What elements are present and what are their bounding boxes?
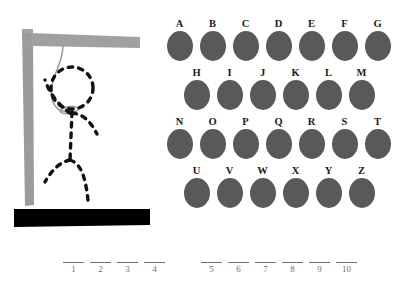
letter-label-s: S [328, 116, 361, 128]
letter-disc-b[interactable] [200, 31, 226, 61]
letter-button-n[interactable]: N [163, 116, 196, 165]
answer-slot-8: 8 [279, 258, 306, 275]
letter-button-f[interactable]: F [328, 18, 361, 67]
letter-label-g: G [361, 18, 394, 30]
letter-disc-p[interactable] [233, 129, 259, 159]
letter-disc-f[interactable] [332, 31, 358, 61]
letter-label-c: C [229, 18, 262, 30]
answer-blank-line-3 [117, 262, 138, 263]
letter-button-b[interactable]: B [196, 18, 229, 67]
letter-button-o[interactable]: O [196, 116, 229, 165]
letter-disc-v[interactable] [217, 178, 243, 208]
letter-label-h: H [180, 67, 213, 79]
gallows-base [14, 209, 150, 227]
letter-button-c[interactable]: C [229, 18, 262, 67]
letter-button-q[interactable]: Q [262, 116, 295, 165]
letter-disc-h[interactable] [184, 80, 210, 110]
letter-button-z[interactable]: Z [345, 165, 378, 214]
letter-disc-n[interactable] [167, 129, 193, 159]
letter-disc-e[interactable] [299, 31, 325, 61]
letter-button-v[interactable]: V [213, 165, 246, 214]
letter-disc-g[interactable] [365, 31, 391, 61]
letter-button-s[interactable]: S [328, 116, 361, 165]
letter-button-y[interactable]: Y [312, 165, 345, 214]
letter-disc-k[interactable] [283, 80, 309, 110]
letter-label-x: X [279, 165, 312, 177]
answer-blank-line-2 [90, 262, 111, 263]
letter-button-m[interactable]: M [345, 67, 378, 116]
letter-button-p[interactable]: P [229, 116, 262, 165]
letter-button-j[interactable]: J [246, 67, 279, 116]
answer-blank-line-8 [282, 262, 303, 263]
letter-disc-s[interactable] [332, 129, 358, 159]
letter-disc-y[interactable] [316, 178, 342, 208]
letter-label-q: Q [262, 116, 295, 128]
alphabet-grid: ABCDEFGHIJKLMNOPQRSTUVWXYZ [163, 18, 413, 236]
letter-disc-c[interactable] [233, 31, 259, 61]
letter-disc-m[interactable] [349, 80, 375, 110]
letter-disc-u[interactable] [184, 178, 210, 208]
letter-button-h[interactable]: H [180, 67, 213, 116]
letter-disc-d[interactable] [266, 31, 292, 61]
letter-button-d[interactable]: D [262, 18, 295, 67]
answer-slot-number-10: 10 [333, 264, 360, 275]
gallows-post-cap [22, 29, 33, 33]
gallows-post [22, 31, 34, 206]
letter-label-a: A [163, 18, 196, 30]
letter-label-z: Z [345, 165, 378, 177]
letter-button-g[interactable]: G [361, 18, 394, 67]
letter-button-x[interactable]: X [279, 165, 312, 214]
letter-label-u: U [180, 165, 213, 177]
letter-button-a[interactable]: A [163, 18, 196, 67]
answer-slot-1: 1 [60, 258, 87, 275]
letter-button-k[interactable]: K [279, 67, 312, 116]
letter-disc-q[interactable] [266, 129, 292, 159]
figure-right-leg [70, 160, 88, 200]
hangman-game-board: ABCDEFGHIJKLMNOPQRSTUVWXYZ 1234 5678910 [0, 0, 413, 300]
alphabet-row-4: UVWXYZ [163, 165, 413, 214]
letter-disc-x[interactable] [283, 178, 309, 208]
answer-blank-line-5 [201, 262, 222, 263]
letter-disc-t[interactable] [365, 129, 391, 159]
letter-label-w: W [246, 165, 279, 177]
answer-blanks-area: 1234 5678910 [0, 258, 413, 288]
letter-button-e[interactable]: E [295, 18, 328, 67]
letter-button-t[interactable]: T [361, 116, 394, 165]
letter-label-i: I [213, 67, 246, 79]
answer-blank-line-9 [309, 262, 330, 263]
letter-label-y: Y [312, 165, 345, 177]
letter-button-w[interactable]: W [246, 165, 279, 214]
alphabet-row-1: ABCDEFG [163, 18, 413, 67]
figure-right-arm [72, 113, 97, 134]
alphabet-row-3: NOPQRST [163, 116, 413, 165]
letter-label-m: M [345, 67, 378, 79]
answer-slot-number-7: 7 [252, 264, 279, 275]
letter-disc-r[interactable] [299, 129, 325, 159]
answer-blank-line-4 [144, 262, 165, 263]
letter-disc-j[interactable] [250, 80, 276, 110]
answer-slot-number-6: 6 [225, 264, 252, 275]
letter-label-d: D [262, 18, 295, 30]
gallows-beam [31, 33, 140, 48]
letter-disc-l[interactable] [316, 80, 342, 110]
letter-button-i[interactable]: I [213, 67, 246, 116]
letter-disc-z[interactable] [349, 178, 375, 208]
answer-blank-line-7 [255, 262, 276, 263]
answer-slot-7: 7 [252, 258, 279, 275]
letter-label-p: P [229, 116, 262, 128]
letter-button-r[interactable]: R [295, 116, 328, 165]
letter-disc-o[interactable] [200, 129, 226, 159]
letter-label-l: L [312, 67, 345, 79]
answer-blank-line-10 [336, 262, 357, 263]
letter-button-u[interactable]: U [180, 165, 213, 214]
answer-blank-line-1 [63, 262, 84, 263]
answer-slot-9: 9 [306, 258, 333, 275]
letter-disc-a[interactable] [167, 31, 193, 61]
answer-blank-line-6 [228, 262, 249, 263]
letter-label-t: T [361, 116, 394, 128]
letter-disc-w[interactable] [250, 178, 276, 208]
answer-word-group-2: 5678910 [198, 258, 360, 275]
letter-disc-i[interactable] [217, 80, 243, 110]
letter-label-b: B [196, 18, 229, 30]
letter-button-l[interactable]: L [312, 67, 345, 116]
